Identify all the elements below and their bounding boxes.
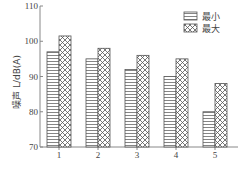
bar-min-5 [203,112,215,147]
x-tick-label: 1 [57,150,62,160]
bar-min-3 [125,69,137,147]
legend: 最小最大 [184,12,220,34]
y-tick-label: 70 [29,142,39,152]
legend-label-min: 最小 [202,12,220,22]
bar-max-5 [215,84,227,147]
x-tick-label: 2 [96,150,101,160]
bar-min-1 [47,52,59,147]
legend-label-max: 最大 [202,23,220,34]
x-tick-label: 4 [174,150,179,160]
y-tick-label: 100 [25,36,39,46]
bar-max-3 [137,55,149,147]
legend-swatch-max [184,24,197,32]
bar-min-4 [164,77,176,148]
y-axis: 708090100110 [25,1,44,152]
bar-chart: 708090100110 12345 最小最大 噪声 L/dB(A) [0,0,238,171]
y-tick-label: 90 [29,72,39,82]
y-tick-label: 80 [29,107,39,117]
legend-swatch-min [184,12,197,20]
bar-min-2 [86,59,98,147]
x-axis: 12345 [40,147,238,160]
bar-max-1 [59,36,71,147]
x-tick-label: 3 [135,150,140,160]
bars [47,36,227,147]
bar-max-2 [98,48,110,147]
y-axis-label: 噪声 L/dB(A) [11,55,22,109]
y-tick-label: 110 [25,1,39,11]
x-tick-label: 5 [213,150,218,160]
bar-max-4 [176,59,188,147]
